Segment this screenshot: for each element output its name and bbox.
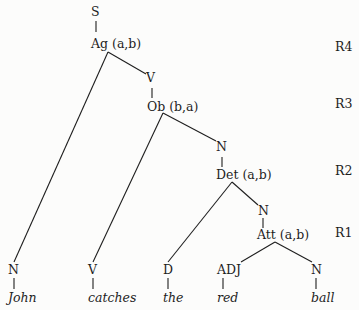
node-n: N <box>216 140 227 154</box>
leaf-v: V <box>88 263 97 277</box>
leaf-d: D <box>163 263 173 277</box>
node-v: V <box>146 71 155 85</box>
node-determiner: Det (a,b) <box>216 168 272 182</box>
word-john: John <box>8 291 37 305</box>
rule-label-r2: R2 <box>335 164 352 178</box>
rule-label-r3: R3 <box>335 97 352 111</box>
leaf-n: N <box>8 263 19 277</box>
node-s: S <box>91 5 100 19</box>
node-attribute: Att (a,b) <box>257 228 309 242</box>
leaf-n: N <box>311 263 322 277</box>
tree-edges <box>0 0 359 310</box>
node-object: Ob (b,a) <box>147 100 198 114</box>
node-agent: Ag (a,b) <box>91 37 141 51</box>
word-ball: ball <box>311 291 334 305</box>
node-n: N <box>258 204 269 218</box>
leaf-adj: ADJ <box>217 263 241 277</box>
rule-label-r1: R1 <box>335 226 352 240</box>
word-the: the <box>163 291 183 305</box>
rule-label-r4: R4 <box>335 40 352 54</box>
word-catches: catches <box>88 291 136 305</box>
word-red: red <box>217 291 238 305</box>
